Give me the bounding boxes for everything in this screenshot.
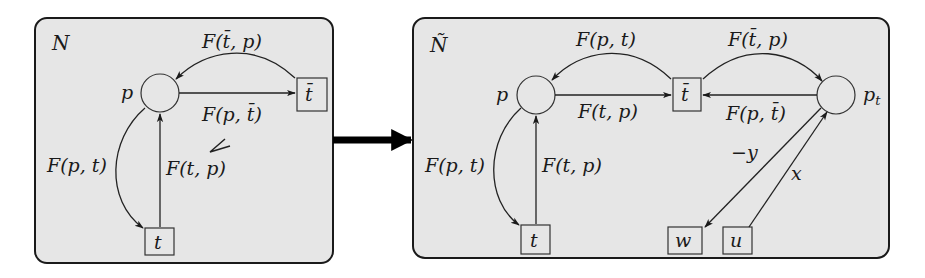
left-transition-t-label: t [154, 231, 162, 253]
left-net-title: N [51, 31, 71, 55]
right-arc-t-to-p-label: F(t, p) [541, 154, 602, 176]
left-arc-tbar-to-p-label: F(t̄, p) [201, 29, 262, 52]
right-place-p [517, 76, 555, 114]
right-transition-w-label: w [675, 229, 691, 251]
right-place-p-label: p [496, 83, 508, 105]
right-arc-tbar-to-pt-label: F(t̄, p) [727, 27, 788, 50]
left-arc-p-to-tbar-label: F(p, t̄) [201, 102, 262, 125]
right-arc-p-to-t-label: F(p, t) [424, 154, 485, 176]
left-transition-tbar-label: t̄ [305, 82, 313, 105]
right-arc-u-to-pt-label: x [791, 162, 802, 184]
right-arc-tbar-to-p-label: F(p, t) [575, 28, 636, 50]
right-panel-frame [413, 18, 889, 258]
left-arc-t-to-p-label: F(t, p) [165, 157, 226, 179]
right-place-pt [817, 76, 855, 114]
right-arc-pt-to-w-label: −y [731, 141, 758, 163]
left-place-p-label: p [121, 81, 133, 103]
right-arc-pt-to-tbar-label: F(p, t̄) [725, 101, 786, 124]
right-arc-p-to-tbar-label: F(t, p) [577, 100, 638, 122]
left-arc-p-to-t-label: F(p, t) [46, 154, 107, 176]
right-transition-u-label: u [730, 229, 742, 251]
right-net-title: Ñ [429, 33, 449, 57]
left-panel-frame [35, 18, 333, 263]
petri-net-transformation-diagram: N p t̄ t F(t̄, p) F(p, t̄) F(p, t) F(t, … [0, 0, 925, 278]
left-net-panel: N p t̄ t F(t̄, p) F(p, t̄) F(p, t) F(t, … [35, 18, 333, 263]
left-place-p [141, 74, 179, 112]
right-transition-t-label: t [530, 229, 538, 251]
right-transition-tbar-label: t̄ [681, 82, 689, 105]
right-net-panel: Ñ p pt t̄ t w u F(p, t) F(t, p) F(t̄, p)… [413, 18, 889, 258]
